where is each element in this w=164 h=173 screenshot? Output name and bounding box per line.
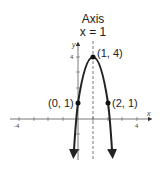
vertex-point	[91, 55, 96, 60]
x-axis-label: x	[146, 110, 151, 117]
y-axis-label: y	[71, 41, 76, 49]
x-tick-label-4: 4	[135, 123, 139, 129]
point-left-label: (0, 1)	[48, 97, 74, 109]
point-right-label: (2, 1)	[112, 97, 138, 109]
point-left	[76, 101, 81, 106]
y-tick-label-4: 4	[70, 54, 74, 60]
point-right	[106, 101, 111, 106]
vertex-label: (1, 4)	[97, 47, 123, 59]
x-tick-label-neg4: -4	[14, 123, 20, 129]
chart-plot: -4 4 4 y x (1, 4) (0, 1) (2, 1)	[0, 0, 164, 173]
